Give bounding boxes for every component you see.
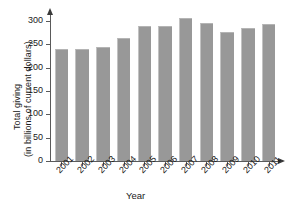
y-tick-label: 150 [28,85,43,95]
y-tick: 50 [46,138,50,139]
bar [220,32,234,161]
bar-series [51,8,279,162]
bar [179,18,193,161]
y-tick-label: 300 [28,15,43,25]
y-tick: 200 [46,68,50,69]
y-tick-label: 250 [28,38,43,48]
bar [55,49,69,161]
bar [75,49,89,161]
bar [117,38,131,161]
y-axis-title-line-1: Total giving [12,84,22,130]
y-axis-title-line-2: (in billions of current dollars) [23,41,33,157]
y-tick: 300 [46,21,50,22]
y-tick-label: 0 [38,155,43,165]
bar [262,24,276,161]
y-tick: 0 [46,161,50,162]
x-axis-title: Year [126,190,145,201]
bar [241,28,255,161]
bar [138,26,152,161]
y-tick: 150 [46,91,50,92]
y-tick-label: 50 [33,132,43,142]
y-tick: 250 [46,44,50,45]
y-tick-label: 200 [28,62,43,72]
bar [200,23,214,161]
bar [96,47,110,161]
y-tick-label: 100 [28,108,43,118]
plot-area: 050100150200250300 200120022003200420052… [50,8,286,162]
bar-chart-figure: Total giving (in billions of current dol… [0,0,292,206]
bar [158,26,172,161]
y-tick: 100 [46,114,50,115]
